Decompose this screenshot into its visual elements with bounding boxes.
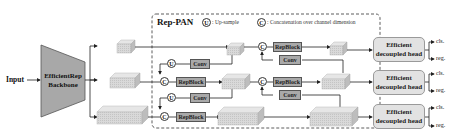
head-1-reg: reg.	[436, 55, 445, 61]
decoupled-head-3: Efficient decoupled head	[373, 104, 425, 129]
pan-feature-top	[227, 43, 244, 55]
input-label: Input	[6, 75, 24, 84]
head-1-cls: cls.	[436, 38, 444, 44]
concat-node-4: C	[258, 77, 267, 86]
upsample-legend-text: : Up-sample	[212, 19, 239, 25]
out-feature-bottom	[310, 107, 358, 126]
head-2-line2: decoupled head	[376, 83, 422, 92]
upsample-node-1: U	[167, 59, 176, 68]
conv-block-1: Conv	[190, 59, 210, 69]
head-3-line1: Efficient	[386, 108, 412, 117]
conv-block-3: Conv	[279, 55, 301, 65]
concat-legend-icon: C	[257, 18, 266, 27]
backbone-line2: Backbone	[41, 81, 85, 90]
conv-block-2: Conv	[190, 93, 210, 103]
head-2-cls: cls.	[436, 70, 444, 76]
backbone-line1: EfficientRep	[41, 72, 85, 81]
concat-legend-text: : Concatenation over channel dimension	[267, 19, 356, 25]
out-feature-top	[330, 42, 347, 55]
repblock-2: RepBlock	[176, 112, 206, 122]
repblock-1: RepBlock	[176, 77, 206, 87]
concat-node-2: C	[160, 112, 169, 121]
decoupled-head-2: Efficient decoupled head	[373, 70, 425, 95]
feature-map-medium	[110, 73, 140, 88]
rep-pan-title: Rep-PAN	[157, 17, 193, 27]
concat-node-3: C	[258, 42, 267, 51]
backbone-label: EfficientRep Backbone	[41, 72, 85, 90]
pan-feature-bottom	[218, 107, 264, 125]
head-1-line1: Efficient	[386, 41, 412, 50]
decoupled-head-1: Efficient decoupled head	[373, 37, 425, 62]
head-3-cls: cls.	[436, 104, 444, 110]
head-2-reg: reg.	[436, 87, 445, 93]
feature-map-large	[97, 106, 148, 124]
repblock-3: RepBlock	[273, 42, 302, 52]
head-2-line1: Efficient	[386, 74, 412, 83]
repblock-4: RepBlock	[273, 77, 302, 87]
concat-node-1: C	[160, 77, 169, 86]
head-3-line2: decoupled head	[376, 117, 422, 126]
conv-block-4: Conv	[279, 90, 301, 100]
out-feature-mid	[322, 74, 350, 89]
head-1-line2: decoupled head	[376, 50, 422, 59]
upsample-node-2: U	[167, 93, 176, 102]
pan-feature-mid	[222, 74, 250, 89]
feature-map-small	[117, 40, 135, 53]
head-3-reg: reg.	[436, 122, 445, 128]
upsample-legend-icon: U	[202, 18, 211, 27]
